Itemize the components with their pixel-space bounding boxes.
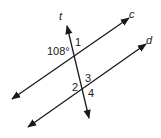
label-line-d: d — [146, 34, 153, 46]
label-angle-108: 108° — [47, 45, 70, 57]
line-c — [12, 18, 129, 99]
label-angle-1: 1 — [75, 36, 81, 48]
label-angle-4: 4 — [88, 87, 94, 99]
label-angle-3: 3 — [85, 72, 91, 84]
parallel-lines-diagram: c d t 108° 1 2 3 4 — [0, 0, 161, 138]
label-angle-2: 2 — [72, 81, 78, 93]
label-line-c: c — [129, 8, 135, 20]
label-line-t: t — [59, 10, 63, 22]
line-d — [28, 44, 146, 127]
